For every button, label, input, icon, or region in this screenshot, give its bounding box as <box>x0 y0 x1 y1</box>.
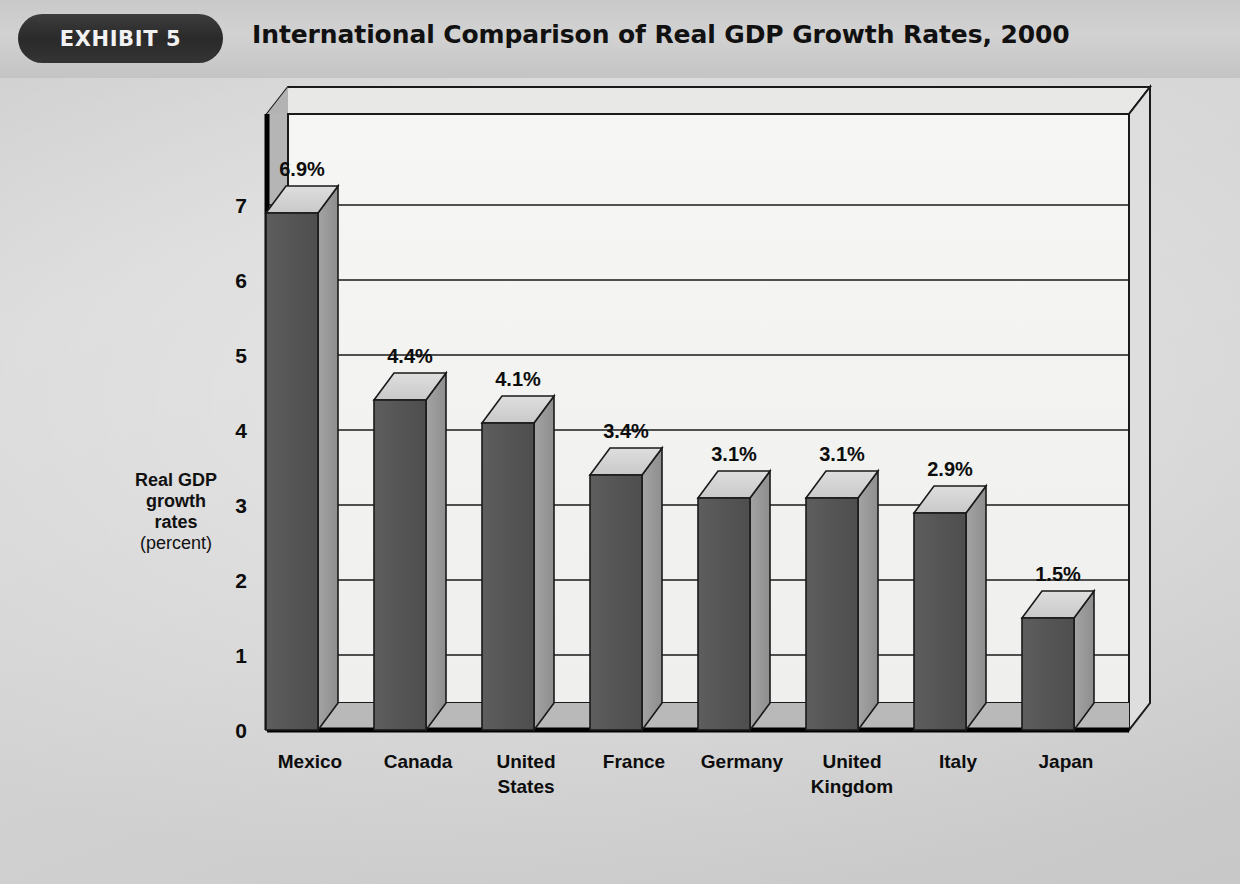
data-label-united-states: 4.1% <box>495 368 541 390</box>
plot-ceiling <box>267 87 1150 114</box>
data-label-italy: 2.9% <box>927 458 973 480</box>
bar-germany[interactable] <box>698 471 770 730</box>
y-tick-6: 6 <box>235 269 247 292</box>
x-category-labels: Mexico Canada United States France Germa… <box>278 751 1094 797</box>
cat-label-united-states-line2: States <box>497 776 554 797</box>
plot-right-wall <box>1129 87 1150 730</box>
data-label-united-kingdom: 3.1% <box>819 443 865 465</box>
bar-japan[interactable] <box>1022 591 1094 730</box>
y-axis-title-line2: growth <box>118 491 234 512</box>
data-label-japan: 1.5% <box>1035 563 1081 585</box>
y-tick-2: 2 <box>235 569 247 592</box>
bar-france[interactable] <box>590 448 662 730</box>
bar-united-kingdom[interactable] <box>806 471 878 730</box>
y-tick-labels: 0 1 2 3 4 5 6 7 <box>235 194 247 742</box>
bar-united-states[interactable] <box>482 396 554 730</box>
data-label-germany: 3.1% <box>711 443 757 465</box>
y-axis-title-line3: rates <box>118 512 234 533</box>
cat-label-japan: Japan <box>1039 751 1094 772</box>
y-axis-title: Real GDP growth rates (percent) <box>118 470 234 554</box>
bar-canada[interactable] <box>374 373 446 730</box>
cat-label-germany: Germany <box>701 751 784 772</box>
cat-label-united-states-line1: United <box>496 751 555 772</box>
exhibit-badge-label: EXHIBIT 5 <box>60 27 181 51</box>
data-label-mexico: 6.9% <box>279 158 325 180</box>
y-axis-title-line4: (percent) <box>118 533 234 554</box>
y-tick-5: 5 <box>235 344 247 367</box>
exhibit-badge: EXHIBIT 5 <box>18 14 223 63</box>
data-label-canada: 4.4% <box>387 345 433 367</box>
cat-label-united-kingdom-line1: United <box>822 751 881 772</box>
y-tick-4: 4 <box>235 419 247 442</box>
cat-label-mexico: Mexico <box>278 751 342 772</box>
y-tick-0: 0 <box>235 719 247 742</box>
y-tick-1: 1 <box>235 644 247 667</box>
exhibit-title: International Comparison of Real GDP Gro… <box>252 20 1070 49</box>
cat-label-italy: Italy <box>939 751 977 772</box>
cat-label-canada: Canada <box>384 751 453 772</box>
y-tick-7: 7 <box>235 194 247 217</box>
chart-figure: 0 1 2 3 4 5 6 7 <box>0 78 1240 884</box>
y-axis-title-line1: Real GDP <box>118 470 234 491</box>
cat-label-france: France <box>603 751 665 772</box>
exhibit-header-band: EXHIBIT 5 International Comparison of Re… <box>0 0 1240 78</box>
data-label-france: 3.4% <box>603 420 649 442</box>
y-tick-3: 3 <box>235 494 247 517</box>
bar-italy[interactable] <box>914 486 986 730</box>
cat-label-united-kingdom-line2: Kingdom <box>811 776 893 797</box>
bar-mexico[interactable] <box>266 186 338 730</box>
